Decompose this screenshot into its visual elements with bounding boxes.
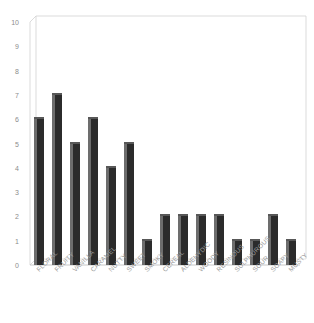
bar-front-face: [55, 95, 63, 265]
y-axis-tick-label: 5: [1, 140, 19, 147]
bar-top-face: [34, 117, 45, 119]
bar-top-face: [178, 214, 189, 216]
bar-top-face: [52, 93, 63, 95]
bar-front-face: [181, 216, 189, 265]
bar-top-face: [250, 239, 261, 241]
bar-front-face: [253, 241, 261, 265]
bar-top-face: [88, 117, 99, 119]
bar-top-face: [124, 142, 135, 144]
bar-front-face: [109, 168, 117, 265]
bar-front-face: [271, 216, 279, 265]
y-axis-tick-label: 8: [1, 67, 19, 74]
y-axis-tick-label: 7: [1, 91, 19, 98]
bar: [52, 95, 63, 265]
y-axis-tick-label: 6: [1, 116, 19, 123]
bar-top-face: [286, 239, 297, 241]
y-axis-tick-label: 3: [1, 189, 19, 196]
bar-top-face: [196, 214, 207, 216]
y-axis-tick-label: 10: [1, 19, 19, 26]
bar-top-face: [232, 239, 243, 241]
bar-front-face: [199, 216, 207, 265]
bar: [250, 241, 261, 265]
bar: [142, 241, 153, 265]
bar-front-face: [91, 119, 99, 265]
bar-front-face: [145, 241, 153, 265]
y-axis-tick-label: 0: [1, 262, 19, 269]
y-axis: 012345678910: [0, 0, 28, 323]
bar: [286, 241, 297, 265]
bar-front-face: [289, 241, 297, 265]
plot-area: [30, 22, 300, 265]
y-axis-tick-label: 4: [1, 164, 19, 171]
bar-front-face: [217, 216, 225, 265]
bar-top-face: [70, 142, 81, 144]
bar: [34, 119, 45, 265]
bar-top-face: [214, 214, 225, 216]
bar-front-face: [37, 119, 45, 265]
bar: [214, 216, 225, 265]
bar-top-face: [160, 214, 171, 216]
bar: [124, 144, 135, 266]
y-axis-tick-label: 9: [1, 43, 19, 50]
bar: [196, 216, 207, 265]
bar-top-face: [268, 214, 279, 216]
bars-layer: [30, 22, 300, 265]
y-axis-tick-label: 2: [1, 213, 19, 220]
bar: [160, 216, 171, 265]
bar-front-face: [127, 144, 135, 266]
bar-front-face: [235, 241, 243, 265]
bar-top-face: [142, 239, 153, 241]
bar: [232, 241, 243, 265]
bar: [88, 119, 99, 265]
bar-top-face: [106, 166, 117, 168]
bar-chart: 012345678910 FLORALFRUITYVANILLACARAMELN…: [0, 0, 314, 323]
bar-front-face: [73, 144, 81, 266]
y-axis-tick-label: 1: [1, 237, 19, 244]
bar: [268, 216, 279, 265]
bar-front-face: [163, 216, 171, 265]
bar: [178, 216, 189, 265]
bar: [106, 168, 117, 265]
bar: [70, 144, 81, 266]
